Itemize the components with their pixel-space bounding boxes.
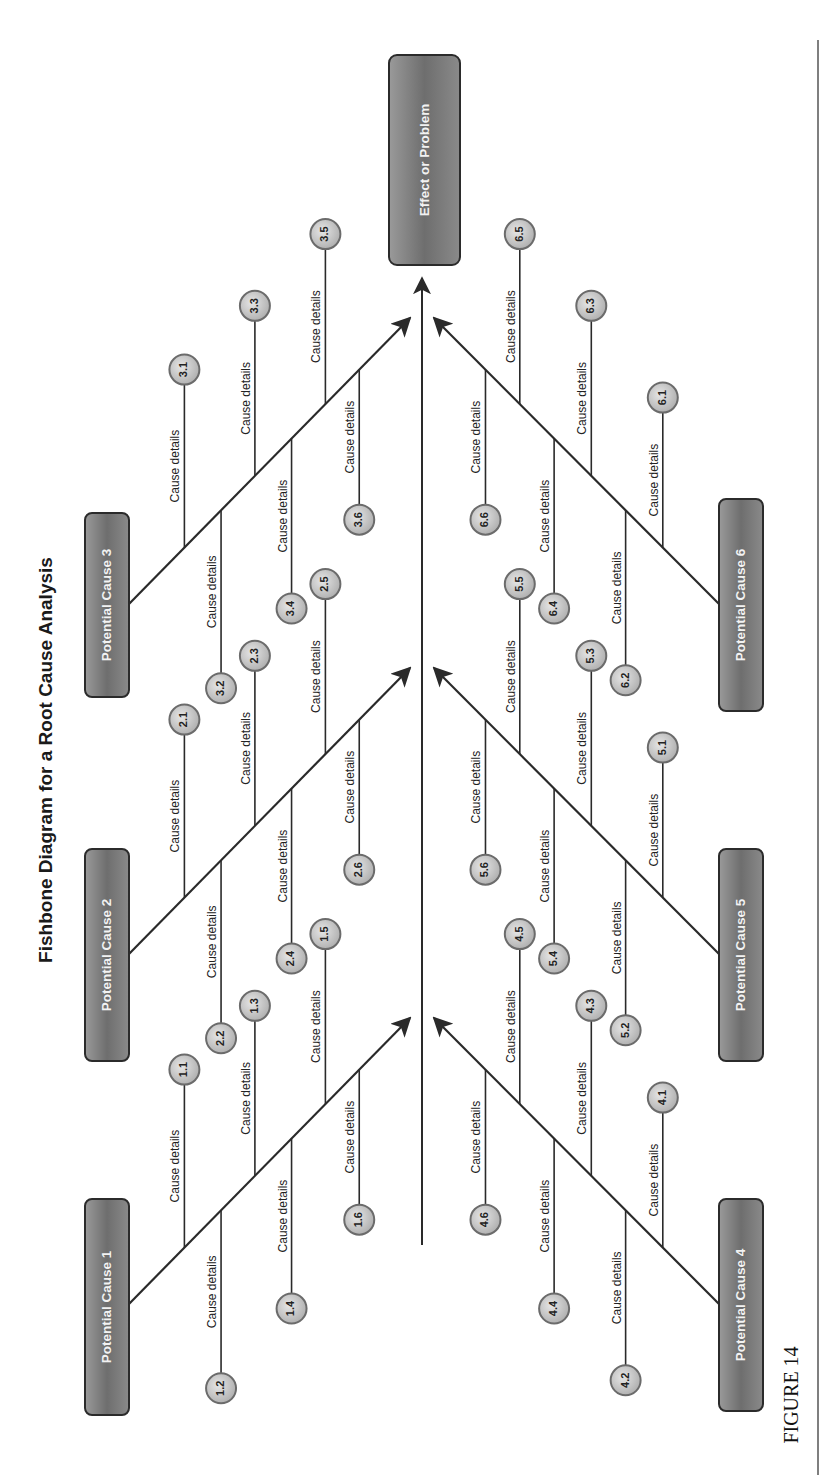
- cause-detail-1-6: Cause details1.6: [343, 1070, 374, 1235]
- cause-detail-3-2: Cause details3.2: [205, 510, 236, 703]
- cause-detail-5-6: Cause details5.6: [469, 720, 500, 885]
- cause-detail-3-6: Cause details3.6: [343, 370, 374, 535]
- detail-number: 3.3: [248, 298, 260, 313]
- cause-detail-text: Cause details: [575, 712, 589, 785]
- detail-number: 5.4: [547, 950, 559, 966]
- cause-detail-text: Cause details: [309, 290, 323, 363]
- detail-number: 4.5: [513, 926, 525, 941]
- cause-branch-6: Potential Cause 6Cause details6.1Cause d…: [434, 219, 763, 711]
- detail-number: 3.5: [318, 226, 330, 241]
- detail-number: 1.5: [318, 926, 330, 941]
- cause-detail-2-3: Cause details2.3: [239, 641, 270, 826]
- cause-label: Potential Cause 3: [99, 548, 114, 661]
- detail-number: 3.1: [177, 362, 189, 377]
- cause-label: Potential Cause 2: [99, 899, 114, 1012]
- cause-detail-text: Cause details: [647, 444, 661, 517]
- cause-detail-1-5: Cause details1.5: [309, 919, 340, 1104]
- detail-number: 1.6: [352, 1212, 364, 1227]
- cause-detail-text: Cause details: [504, 290, 518, 363]
- detail-number: 5.3: [584, 648, 596, 663]
- cause-detail-5-3: Cause details5.3: [575, 641, 606, 826]
- effect-label: Effect or Problem: [417, 104, 432, 217]
- cause-detail-text: Cause details: [343, 401, 357, 474]
- cause-detail-text: Cause details: [168, 1130, 182, 1203]
- cause-detail-4-2: Cause details4.2: [610, 1210, 641, 1395]
- cause-detail-text: Cause details: [276, 830, 290, 903]
- detail-number: 6.6: [478, 512, 490, 527]
- cause-detail-text: Cause details: [469, 751, 483, 824]
- cause-branch-1: Potential Cause 1Cause details1.1Cause d…: [85, 919, 410, 1415]
- detail-number: 3.4: [284, 600, 296, 616]
- detail-number: 2.1: [177, 712, 189, 727]
- cause-detail-1-1: Cause details1.1: [168, 1055, 199, 1248]
- fishbone-diagram: Fishbone Diagram for a Root Cause Analys…: [0, 0, 820, 1481]
- cause-detail-text: Cause details: [504, 640, 518, 713]
- cause-box-1: Potential Cause 1: [85, 1199, 129, 1415]
- detail-number: 4.3: [584, 998, 596, 1013]
- cause-detail-text: Cause details: [276, 480, 290, 553]
- detail-number: 6.2: [619, 673, 631, 688]
- cause-branch-5: Potential Cause 5Cause details5.1Cause d…: [434, 569, 763, 1061]
- cause-detail-text: Cause details: [647, 794, 661, 867]
- figure-label: FIGURE 14: [780, 1346, 802, 1443]
- cause-detail-6-3: Cause details6.3: [575, 291, 606, 476]
- cause-detail-3-1: Cause details3.1: [168, 355, 199, 548]
- effect-box: Effect or Problem: [389, 55, 460, 265]
- cause-detail-text: Cause details: [205, 1255, 219, 1328]
- cause-detail-6-4: Cause details6.4: [538, 439, 569, 624]
- cause-label: Potential Cause 5: [733, 898, 748, 1011]
- cause-detail-text: Cause details: [610, 901, 624, 974]
- cause-detail-6-1: Cause details6.1: [647, 383, 678, 548]
- cause-detail-4-6: Cause details4.6: [469, 1070, 500, 1235]
- detail-number: 6.4: [547, 600, 559, 616]
- diagram-title: Fishbone Diagram for a Root Cause Analys…: [35, 557, 56, 963]
- cause-detail-2-5: Cause details2.5: [309, 569, 340, 754]
- cause-detail-text: Cause details: [168, 430, 182, 503]
- cause-detail-2-1: Cause details2.1: [168, 705, 199, 898]
- cause-detail-2-4: Cause details2.4: [276, 789, 307, 974]
- cause-label: Potential Cause 4: [733, 1248, 748, 1361]
- cause-detail-6-2: Cause details6.2: [610, 510, 641, 695]
- cause-detail-6-5: Cause details6.5: [504, 219, 535, 404]
- detail-number: 5.6: [478, 862, 490, 877]
- cause-detail-text: Cause details: [610, 551, 624, 624]
- detail-number: 5.1: [656, 740, 668, 755]
- detail-number: 4.4: [547, 1300, 559, 1316]
- cause-detail-text: Cause details: [538, 480, 552, 553]
- cause-detail-4-5: Cause details4.5: [504, 919, 535, 1104]
- cause-detail-text: Cause details: [239, 362, 253, 435]
- detail-number: 4.6: [478, 1212, 490, 1227]
- cause-detail-2-6: Cause details2.6: [343, 720, 374, 885]
- cause-detail-3-5: Cause details3.5: [309, 219, 340, 404]
- detail-number: 2.5: [318, 576, 330, 591]
- detail-number: 3.2: [214, 681, 226, 696]
- cause-detail-text: Cause details: [469, 1101, 483, 1174]
- cause-label: Potential Cause 6: [733, 548, 748, 661]
- cause-box-6: Potential Cause 6: [719, 499, 763, 711]
- cause-detail-text: Cause details: [538, 830, 552, 903]
- cause-detail-text: Cause details: [343, 1101, 357, 1174]
- detail-number: 5.2: [619, 1023, 631, 1038]
- cause-detail-text: Cause details: [239, 712, 253, 785]
- cause-detail-text: Cause details: [504, 990, 518, 1063]
- detail-number: 6.3: [584, 298, 596, 313]
- detail-number: 5.5: [513, 576, 525, 591]
- cause-box-4: Potential Cause 4: [719, 1199, 763, 1411]
- cause-branch-4: Potential Cause 4Cause details4.1Cause d…: [434, 919, 763, 1411]
- cause-detail-text: Cause details: [205, 905, 219, 978]
- cause-label: Potential Cause 1: [99, 1250, 114, 1363]
- cause-detail-4-3: Cause details4.3: [575, 991, 606, 1176]
- detail-number: 4.2: [619, 1373, 631, 1388]
- cause-branch-2: Potential Cause 2Cause details2.1Cause d…: [85, 569, 410, 1061]
- detail-number: 3.6: [352, 512, 364, 527]
- detail-number: 6.5: [513, 226, 525, 241]
- cause-detail-4-1: Cause details4.1: [647, 1083, 678, 1248]
- detail-number: 1.1: [177, 1062, 189, 1077]
- detail-number: 1.4: [284, 1300, 296, 1316]
- cause-detail-1-3: Cause details1.3: [239, 991, 270, 1176]
- detail-number: 2.2: [214, 1031, 226, 1046]
- cause-detail-6-6: Cause details6.6: [469, 370, 500, 535]
- detail-number: 6.1: [656, 390, 668, 405]
- detail-number: 1.2: [214, 1381, 226, 1396]
- cause-detail-text: Cause details: [239, 1062, 253, 1135]
